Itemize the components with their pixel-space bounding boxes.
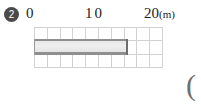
- axis-tick-label-20: 20(m): [144, 4, 175, 23]
- grid-cell: [48, 55, 61, 68]
- grid-cell: [137, 55, 150, 68]
- grid-cell: [61, 55, 74, 68]
- worksheet-figure: 2 0 10 20(m) (: [0, 0, 201, 107]
- question-number-badge: 2: [4, 7, 19, 22]
- grid-cell: [137, 41, 150, 54]
- grid-cell: [73, 55, 86, 68]
- grid-cell: [150, 41, 163, 54]
- length-bar: [34, 39, 128, 55]
- grid-cell: [137, 28, 150, 41]
- axis-tick-label-0: 0: [26, 4, 34, 22]
- answer-open-paren: (: [186, 68, 196, 102]
- axis-unit-label: (m): [159, 8, 175, 20]
- grid-cell: [150, 55, 163, 68]
- axis-tick-label-10: 10: [85, 4, 104, 22]
- grid-cell: [112, 55, 125, 68]
- grid-cell: [150, 28, 163, 41]
- grid-cell: [125, 55, 138, 68]
- grid-cell: [35, 55, 48, 68]
- grid-cell: [86, 55, 99, 68]
- axis-tick-label-20-value: 20: [144, 5, 159, 21]
- grid-cell: [99, 55, 112, 68]
